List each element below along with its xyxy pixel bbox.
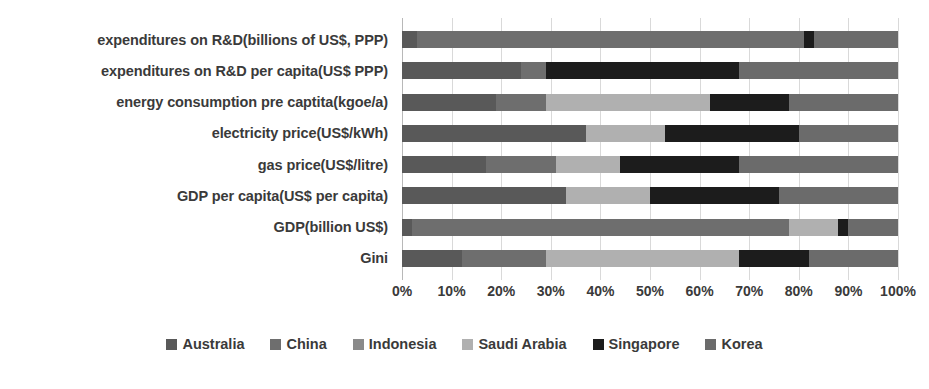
bar-segment-australia[interactable] [402,62,521,79]
category-axis-labels: expenditures on R&D(billions of US$, PPP… [0,24,396,274]
bar-segment-saudi-arabia[interactable] [789,219,839,236]
bar-row [402,87,898,118]
category-label: electricity price(US$/kWh) [0,118,396,149]
bar-segment-korea[interactable] [789,94,898,111]
bar-segment-korea[interactable] [814,31,898,48]
legend-label: Singapore [609,336,680,352]
x-tick-label: 30% [537,283,565,299]
x-tick-label: 60% [686,283,714,299]
bar-segment-singapore[interactable] [620,156,739,173]
legend-item-indonesia[interactable]: Indonesia [353,336,437,352]
stacked-bar[interactable] [402,187,898,204]
bar-segment-singapore[interactable] [838,219,848,236]
bar-segment-australia[interactable] [402,125,586,142]
legend-label: Saudi Arabia [478,336,566,352]
bar-row [402,149,898,180]
bar-segment-saudi-arabia[interactable] [566,187,650,204]
legend-label: Australia [182,336,244,352]
legend-swatch-icon [462,339,473,350]
bar-segment-korea[interactable] [809,250,898,267]
category-label: expenditures on R&D(billions of US$, PPP… [0,24,396,55]
category-label: gas price(US$/litre) [0,149,396,180]
legend-swatch-icon [353,339,364,350]
bar-segment-singapore[interactable] [665,125,799,142]
stacked-bar[interactable] [402,250,898,267]
bar-segment-china[interactable] [496,94,546,111]
legend-label: Indonesia [369,336,437,352]
stacked-bar-chart: expenditures on R&D(billions of US$, PPP… [0,0,929,389]
bar-segment-korea[interactable] [739,156,898,173]
x-tick-label: 80% [785,283,813,299]
x-tick-label: 90% [834,283,862,299]
bar-segment-saudi-arabia[interactable] [586,125,665,142]
x-tick-label: 70% [735,283,763,299]
bar-segment-australia[interactable] [402,187,566,204]
category-label: GDP per capita(US$ per capita) [0,180,396,211]
x-tick-label: 20% [487,283,515,299]
bar-segment-saudi-arabia[interactable] [546,94,710,111]
bar-segment-australia[interactable] [402,219,412,236]
bar-segment-korea[interactable] [779,187,898,204]
bar-row [402,212,898,243]
stacked-bar[interactable] [402,31,898,48]
legend-swatch-icon [705,339,716,350]
bar-segment-singapore[interactable] [710,94,789,111]
x-tick-label: 10% [438,283,466,299]
legend-item-korea[interactable]: Korea [705,336,762,352]
bar-segment-korea[interactable] [739,62,898,79]
bar-segment-singapore[interactable] [739,250,808,267]
x-axis-tick-labels: 0%10%20%30%40%50%60%70%80%90%100% [402,283,898,305]
category-label: Gini [0,243,396,274]
category-label: GDP(billion US$) [0,212,396,243]
bar-segment-saudi-arabia[interactable] [546,250,739,267]
x-tick-label: 100% [880,283,916,299]
bar-segment-singapore[interactable] [804,31,814,48]
bar-row [402,55,898,86]
bar-segment-korea[interactable] [799,125,898,142]
bar-series-container [402,24,898,274]
gridline [898,18,899,280]
plot-area [402,18,898,280]
bar-segment-australia[interactable] [402,156,486,173]
bar-segment-singapore[interactable] [650,187,779,204]
stacked-bar[interactable] [402,125,898,142]
legend-item-australia[interactable]: Australia [166,336,244,352]
bar-segment-singapore[interactable] [546,62,739,79]
x-tick-label: 40% [586,283,614,299]
bar-segment-china[interactable] [521,62,546,79]
legend-swatch-icon [166,339,177,350]
bar-segment-china[interactable] [462,250,546,267]
legend-item-saudi-arabia[interactable]: Saudi Arabia [462,336,566,352]
stacked-bar[interactable] [402,94,898,111]
x-tick-label: 50% [636,283,664,299]
legend-item-singapore[interactable]: Singapore [593,336,680,352]
legend-item-china[interactable]: China [270,336,326,352]
stacked-bar[interactable] [402,156,898,173]
bar-row [402,118,898,149]
bar-segment-china[interactable] [412,219,789,236]
legend-label: Korea [721,336,762,352]
bar-segment-australia[interactable] [402,250,462,267]
legend-label: China [286,336,326,352]
bar-row [402,180,898,211]
legend-swatch-icon [593,339,604,350]
bar-segment-china[interactable] [486,156,555,173]
bar-segment-australia[interactable] [402,31,417,48]
x-tick-label: 0% [392,283,412,299]
bar-segment-china[interactable] [417,31,804,48]
category-label: expenditures on R&D per capita(US$ PPP) [0,55,396,86]
bar-segment-korea[interactable] [848,219,898,236]
bar-segment-saudi-arabia[interactable] [556,156,620,173]
stacked-bar[interactable] [402,219,898,236]
stacked-bar[interactable] [402,62,898,79]
bar-segment-australia[interactable] [402,94,496,111]
chart-legend: AustraliaChinaIndonesiaSaudi ArabiaSinga… [0,336,929,352]
bar-row [402,24,898,55]
bar-row [402,243,898,274]
legend-swatch-icon [270,339,281,350]
category-label: energy consumption pre captita(kgoe/a) [0,87,396,118]
